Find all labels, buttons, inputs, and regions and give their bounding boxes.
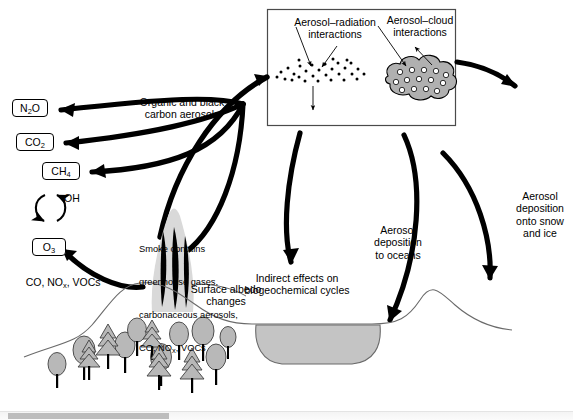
label-precursors: CO, NOx, VOCs [14,264,101,302]
horizontal-scrollbar-thumb[interactable] [8,413,169,419]
label-aerosol-deposition-oceans: Aerosol deposition to oceans [360,224,436,261]
label-oh-radical: OH [64,192,80,204]
species-label-o3: O3 [43,241,55,253]
species-box-o3: O3 [32,238,66,256]
arrow-indirect-effects [283,133,300,264]
water-body [256,325,381,364]
species-label-ch4: CH4 [51,165,70,177]
smoke-contents-line-4: CO, NOx, VOCs [139,343,238,354]
arrow-deposition-snow-ice [443,153,498,280]
oh-cycle-arrows [36,195,65,221]
species-box-n2o: N2O [12,99,48,117]
species-label-n2o: N2O [20,102,40,114]
horizontal-scrollbar-track[interactable] [0,411,573,420]
label-indirect-effects: Indirect effects on biogeochemical cycle… [222,272,372,297]
label-aerosol-cloud-interactions: Aerosol–cloud interactions [378,14,462,39]
label-organic-black-carbon: Organic and black carbon aerosols [124,96,240,121]
species-box-ch4: CH4 [42,162,80,180]
figure-canvas: N2O CO2 CH4 O3 OH CO, NOx, VOCs Organic … [0,0,573,420]
species-label-co2: CO2 [25,136,45,148]
smoke-contents-line-1: Smoke contains [139,244,238,255]
diagram-graphics [0,0,573,420]
smoke-contents-line-3: carbonaceous aerosols, [139,310,238,321]
arrow-panel-exit-right [457,62,517,87]
label-aerosol-radiation-interactions: Aerosol–radiation interactions [277,16,393,41]
species-box-co2: CO2 [16,133,54,151]
label-aerosol-deposition-snow-ice: Aerosol deposition onto snow and ice [508,190,572,240]
